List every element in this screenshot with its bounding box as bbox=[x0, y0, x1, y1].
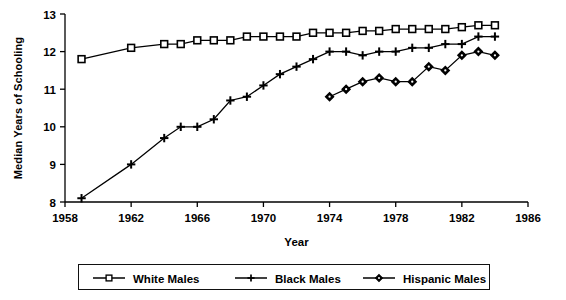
marker-square bbox=[161, 41, 168, 48]
y-axis-title: Median Years of Schooling bbox=[12, 37, 24, 179]
marker-square bbox=[492, 22, 499, 29]
marker-square bbox=[425, 26, 432, 33]
marker-square bbox=[210, 37, 217, 44]
legend-label: Black Males bbox=[275, 273, 341, 285]
marker-diamond-center bbox=[494, 54, 496, 56]
x-axis-title: Year bbox=[284, 236, 309, 248]
marker-diamond-center bbox=[428, 65, 430, 67]
marker-square bbox=[392, 26, 399, 33]
marker-square bbox=[442, 26, 449, 33]
marker-diamond-center bbox=[395, 81, 397, 83]
marker-square bbox=[293, 33, 300, 40]
marker-square bbox=[177, 41, 184, 48]
y-tick-label: 13 bbox=[43, 9, 56, 21]
legend-label: Hispanic Males bbox=[403, 273, 486, 285]
marker-square bbox=[128, 44, 135, 51]
series-white-males bbox=[78, 22, 498, 63]
marker-diamond-center bbox=[378, 77, 380, 79]
marker-diamond-center bbox=[345, 88, 347, 90]
line-chart-plot: 8910111213195819621966197019741978198219… bbox=[0, 0, 566, 300]
y-tick-label: 10 bbox=[43, 121, 56, 133]
x-tick-label: 1986 bbox=[515, 212, 541, 224]
marker-square bbox=[409, 26, 416, 33]
x-tick-label: 1982 bbox=[449, 212, 475, 224]
legend-label: White Males bbox=[133, 273, 199, 285]
marker-square bbox=[260, 33, 267, 40]
y-tick-label: 11 bbox=[44, 84, 57, 96]
chart-legend: White MalesBlack MalesHispanic Males bbox=[78, 264, 490, 290]
x-tick-label: 1966 bbox=[184, 212, 210, 224]
marker-diamond-center bbox=[411, 81, 413, 83]
marker-diamond-center bbox=[328, 96, 330, 98]
x-tick-label: 1962 bbox=[118, 212, 144, 224]
marker-square bbox=[343, 29, 350, 36]
marker-square bbox=[106, 275, 112, 281]
y-tick-label: 9 bbox=[50, 159, 56, 171]
x-tick-label: 1978 bbox=[383, 212, 409, 224]
y-tick-label: 8 bbox=[50, 197, 57, 209]
marker-square bbox=[310, 29, 317, 36]
x-tick-label: 1970 bbox=[251, 212, 277, 224]
marker-square bbox=[326, 29, 333, 36]
y-tick-label: 12 bbox=[43, 46, 56, 58]
marker-square bbox=[78, 56, 85, 63]
marker-diamond-center bbox=[461, 54, 463, 56]
x-tick-label: 1974 bbox=[317, 212, 343, 224]
marker-diamond-center bbox=[477, 50, 479, 52]
series-black-males bbox=[77, 32, 499, 202]
series-line bbox=[330, 52, 495, 97]
marker-diamond-center bbox=[444, 69, 446, 71]
marker-square bbox=[359, 28, 366, 35]
series-hispanic-males bbox=[326, 48, 499, 101]
marker-square bbox=[376, 28, 383, 35]
series-line bbox=[82, 37, 495, 199]
legend-content: White MalesBlack MalesHispanic Males bbox=[79, 265, 489, 289]
marker-diamond-center bbox=[378, 277, 380, 279]
marker-square bbox=[194, 37, 201, 44]
marker-square bbox=[243, 33, 250, 40]
x-tick-label: 1958 bbox=[52, 212, 78, 224]
marker-square bbox=[475, 22, 482, 29]
marker-square bbox=[458, 24, 465, 31]
marker-square bbox=[277, 33, 284, 40]
marker-square bbox=[227, 37, 234, 44]
marker-diamond-center bbox=[361, 81, 363, 83]
chart-container: 8910111213195819621966197019741978198219… bbox=[0, 0, 566, 300]
